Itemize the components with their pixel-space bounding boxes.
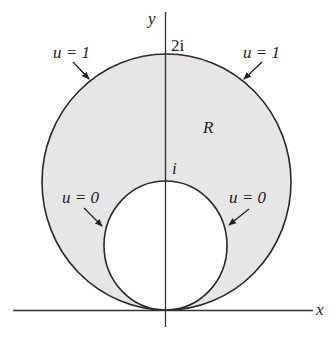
- diagram-canvas: x y 2i i R u = 1 u = 1 u = 0 u = 0: [0, 0, 335, 343]
- region-label: R: [202, 118, 214, 137]
- x-axis-label: x: [315, 300, 324, 319]
- arrow-outer-left: [73, 62, 89, 79]
- label-inner-right: u = 0: [229, 188, 266, 207]
- tick-i: i: [172, 159, 177, 178]
- label-inner-left: u = 0: [62, 188, 99, 207]
- label-outer-right: u = 1: [243, 43, 280, 62]
- y-axis-label: y: [146, 9, 156, 28]
- label-outer-left: u = 1: [53, 43, 90, 62]
- arrow-outer-right: [244, 62, 262, 79]
- tick-2i: 2i: [171, 36, 185, 55]
